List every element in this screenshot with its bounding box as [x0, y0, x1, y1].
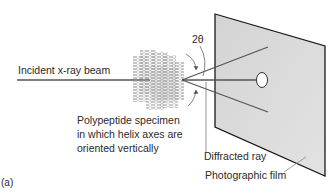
film-center-hole: [257, 73, 268, 88]
polypeptide-specimen: [133, 50, 184, 110]
specimen-label-line2: in which helix axes are: [77, 128, 183, 141]
diffraction-diagram: [0, 0, 335, 193]
specimen-label-line1: Polypeptide specimen: [77, 114, 180, 127]
incident-beam-label: Incident x-ray beam: [18, 64, 110, 77]
diffracted-ray-label: Diffracted ray: [204, 150, 266, 163]
specimen-label-line3: oriented vertically: [77, 142, 159, 155]
angle-label: 2θ: [192, 33, 204, 46]
arrowhead-icon: [194, 66, 199, 70]
panel-label: (a): [1, 177, 13, 190]
film-label: Photographic film: [205, 169, 286, 182]
arrowhead-icon: [194, 90, 199, 94]
